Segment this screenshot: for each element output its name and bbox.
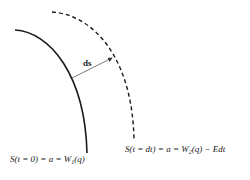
initial-surface-curve — [15, 30, 87, 153]
evolved-surface-curve — [52, 12, 134, 141]
evolved-surface-label: S(t = dt) = a = W2(q) − Edt — [125, 144, 226, 155]
initial-surface-label: S(t = 0) = a = W1(q) — [10, 154, 85, 165]
diagram-canvas: ds S(t = 0) = a = W1(q) S(t = dt) = a = … — [0, 0, 250, 180]
ds-label: ds — [83, 58, 92, 68]
ds-arrow — [72, 58, 112, 78]
